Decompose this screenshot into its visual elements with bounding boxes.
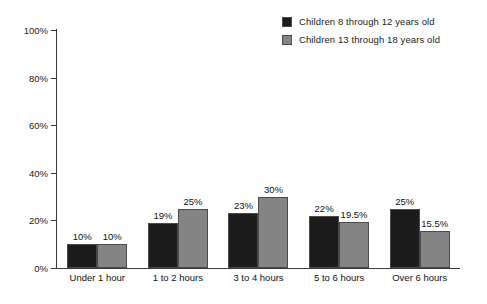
y-axis-tick-mark	[51, 268, 57, 269]
bar-series-1[interactable]	[258, 197, 288, 268]
bar-pair: 23%30%	[228, 30, 288, 268]
bar-group: 23%30%	[218, 30, 299, 268]
bar-item[interactable]: 19.5%	[339, 30, 369, 268]
bar-group: 25%15.5%	[379, 30, 460, 268]
legend-label-series-0: Children 8 through 12 years old	[299, 16, 435, 27]
legend-item-series-0: Children 8 through 12 years old	[282, 14, 440, 29]
bar-series-0[interactable]	[309, 216, 339, 268]
bar-item[interactable]: 23%	[228, 30, 258, 268]
y-axis-tick-label: 80%	[29, 72, 48, 83]
bar-series-0[interactable]	[148, 223, 178, 268]
bar-chart: Children 8 through 12 years old Children…	[0, 0, 487, 304]
bar-group: 22%19.5%	[299, 30, 380, 268]
bar-series-0[interactable]	[390, 209, 420, 269]
bar-item[interactable]: 25%	[390, 30, 420, 268]
bar-item[interactable]: 22%	[309, 30, 339, 268]
x-axis-category-label: 5 to 6 hours	[314, 272, 364, 283]
bar-value-label: 30%	[264, 184, 283, 195]
bar-value-label: 25%	[395, 196, 414, 207]
y-axis-tick-label: 40%	[29, 167, 48, 178]
x-axis-category-label: 3 to 4 hours	[233, 272, 283, 283]
x-axis-category-label: 1 to 2 hours	[153, 272, 203, 283]
bar-item[interactable]: 19%	[148, 30, 178, 268]
legend-swatch-icon-series-0	[282, 17, 292, 27]
y-axis-tick-label: 0%	[34, 263, 48, 274]
bar-value-label: 19.5%	[341, 209, 368, 220]
bar-series-0[interactable]	[67, 244, 97, 268]
bar-value-label: 10%	[73, 231, 92, 242]
bar-item[interactable]: 30%	[258, 30, 288, 268]
bar-pair: 22%19.5%	[309, 30, 369, 268]
bar-value-label: 10%	[103, 231, 122, 242]
bar-item[interactable]: 25%	[178, 30, 208, 268]
bar-item[interactable]: 15.5%	[420, 30, 450, 268]
bar-item[interactable]: 10%	[97, 30, 127, 268]
bar-group: 10%10%	[57, 30, 138, 268]
bar-value-label: 22%	[315, 203, 334, 214]
bar-series-1[interactable]	[97, 244, 127, 268]
bar-pair: 25%15.5%	[390, 30, 450, 268]
bar-value-label: 19%	[153, 210, 172, 221]
bar-pair: 19%25%	[148, 30, 208, 268]
bar-value-label: 23%	[234, 200, 253, 211]
bar-series-0[interactable]	[228, 213, 258, 268]
bar-value-label: 15.5%	[421, 218, 448, 229]
x-axis-category-label: Under 1 hour	[70, 272, 125, 283]
x-axis-line	[56, 268, 460, 269]
y-axis-tick-label: 60%	[29, 120, 48, 131]
bar-series-1[interactable]	[339, 222, 369, 268]
y-axis-tick-label: 20%	[29, 215, 48, 226]
bar-value-label: 25%	[183, 196, 202, 207]
plot-area: 10%10%19%25%23%30%22%19.5%25%15.5%	[57, 30, 460, 268]
x-axis-category-label: Over 6 hours	[392, 272, 447, 283]
bar-series-1[interactable]	[178, 209, 208, 269]
bar-group: 19%25%	[138, 30, 219, 268]
y-axis-tick-label: 100%	[24, 25, 48, 36]
bar-series-1[interactable]	[420, 231, 450, 268]
bar-pair: 10%10%	[67, 30, 127, 268]
bar-item[interactable]: 10%	[67, 30, 97, 268]
